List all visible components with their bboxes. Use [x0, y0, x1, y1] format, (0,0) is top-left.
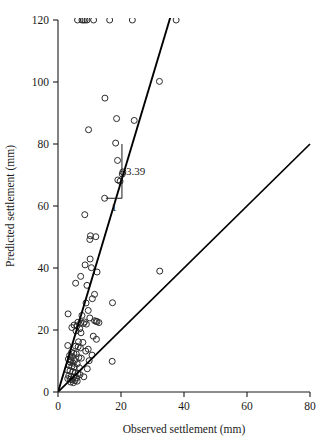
data-point	[82, 262, 88, 268]
data-point	[113, 140, 119, 146]
x-tick-label: 40	[178, 400, 190, 412]
data-point	[78, 273, 84, 279]
data-point	[102, 95, 108, 101]
y-tick-label: 60	[38, 200, 50, 212]
data-point	[73, 280, 79, 286]
data-point	[156, 78, 162, 84]
scatter-plot-figure: 020406080 020406080100120 Observed settl…	[0, 0, 331, 443]
y-axis-title: Predicted settlement (mm)	[4, 145, 17, 267]
data-point	[157, 268, 163, 274]
x-axis-ticks: 020406080	[55, 392, 316, 412]
data-point	[114, 116, 120, 122]
data-point	[129, 17, 135, 23]
data-point	[173, 17, 179, 23]
data-point	[131, 117, 137, 123]
data-point	[84, 366, 90, 372]
data-point	[91, 17, 97, 23]
data-point	[80, 339, 86, 345]
data-point	[107, 17, 113, 23]
trend-line-group	[58, 0, 310, 392]
x-axis-title: Observed settlement (mm)	[123, 423, 246, 436]
x-tick-label: 80	[304, 400, 316, 412]
y-tick-label: 100	[32, 76, 50, 88]
data-point	[85, 307, 91, 313]
plot-svg: 020406080 020406080100120 Observed settl…	[0, 0, 331, 443]
slope-rise-label: 3.39	[126, 165, 146, 177]
data-point	[65, 343, 71, 349]
y-tick-label: 80	[38, 138, 50, 150]
data-point	[88, 265, 94, 271]
y-tick-label: 20	[38, 324, 50, 336]
y-tick-label: 120	[32, 14, 50, 26]
data-point	[87, 256, 93, 262]
y-tick-label: 40	[38, 262, 50, 274]
data-point	[109, 300, 115, 306]
x-tick-label: 60	[241, 400, 253, 412]
x-tick-label: 0	[55, 400, 61, 412]
data-point	[109, 358, 115, 364]
data-point	[65, 311, 71, 317]
y-axis-ticks: 020406080100120	[32, 14, 58, 398]
data-point	[115, 157, 121, 163]
data-point	[86, 127, 92, 133]
y-tick-label: 0	[43, 386, 49, 398]
x-tick-label: 20	[115, 400, 127, 412]
data-point	[82, 212, 88, 218]
slope-run-label: 1	[111, 201, 117, 213]
data-point	[87, 236, 93, 242]
